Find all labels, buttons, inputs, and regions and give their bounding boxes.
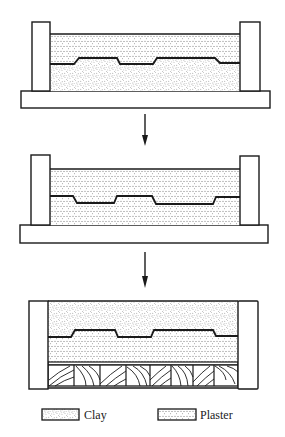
- step-1-right-post: [240, 22, 260, 91]
- plaster-swatch: [158, 409, 196, 420]
- step-1-left-post: [32, 22, 50, 91]
- step-2-left-post: [31, 155, 50, 225]
- legend-item-plaster: Plaster: [158, 408, 233, 422]
- down-arrow-icon: [142, 252, 148, 288]
- legend-item-clay: Clay: [42, 408, 107, 422]
- step-2-assembly: [20, 155, 268, 243]
- legend: Clay Plaster: [42, 408, 233, 422]
- step-2-base-board: [20, 225, 268, 243]
- step-1-base-board: [21, 91, 270, 108]
- mould-process-diagram: Clay Plaster: [0, 0, 285, 437]
- step-2-right-post: [240, 156, 259, 225]
- down-arrow-icon: [142, 114, 148, 146]
- step-3-left-post: [29, 301, 48, 389]
- step-3-right-post: [238, 301, 258, 389]
- clay-swatch: [42, 409, 79, 420]
- plaster-label: Plaster: [200, 408, 233, 422]
- clay-label: Clay: [84, 408, 107, 422]
- step-1-assembly: [21, 22, 270, 108]
- step-3-wood-blocks: [48, 365, 238, 386]
- step-3-assembly: [29, 301, 258, 389]
